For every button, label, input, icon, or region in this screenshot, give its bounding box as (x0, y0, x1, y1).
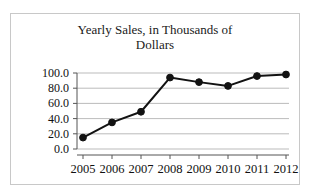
data-point-2009 (196, 79, 203, 86)
x-tick-label-2006: 2006 (100, 162, 125, 176)
x-tick-label-2010: 2010 (216, 162, 241, 176)
y-axis (73, 73, 77, 149)
data-point-2012 (283, 71, 290, 78)
y-tick-label-20: 20.0 (48, 127, 69, 141)
series-markers (80, 71, 290, 141)
data-point-2011 (254, 73, 261, 80)
data-point-2007 (138, 108, 145, 115)
y-tick-label-0: 0.0 (54, 142, 69, 156)
y-tick-label-80: 80.0 (48, 81, 69, 95)
x-tick-label-2012: 2012 (274, 162, 299, 176)
data-point-2006 (109, 119, 116, 126)
chart-container: Yearly Sales, in Thousands of Dollars 10… (10, 13, 300, 185)
x-axis-tick-labels: 2005 2006 2007 2008 2009 2010 2011 2012 (71, 162, 299, 176)
x-tick-label-2005: 2005 (71, 162, 96, 176)
data-point-2008 (167, 74, 174, 81)
y-tick-label-40: 40.0 (48, 112, 69, 126)
y-tick-label-60: 60.0 (48, 96, 69, 110)
y-tick-label-100: 100.0 (42, 66, 69, 80)
line-chart-plot: 100.0 80.0 60.0 40.0 20.0 0.0 2005 2006 … (11, 14, 299, 184)
gridlines (77, 73, 289, 149)
x-tick-label-2009: 2009 (187, 162, 212, 176)
y-axis-tick-labels: 100.0 80.0 60.0 40.0 20.0 0.0 (42, 66, 69, 156)
x-axis (77, 155, 289, 159)
series-line-yearly-sales (83, 75, 286, 138)
x-tick-label-2007: 2007 (129, 162, 154, 176)
x-tick-label-2011: 2011 (245, 162, 270, 176)
x-tick-label-2008: 2008 (158, 162, 183, 176)
data-point-2005 (80, 134, 87, 141)
data-point-2010 (225, 83, 232, 90)
